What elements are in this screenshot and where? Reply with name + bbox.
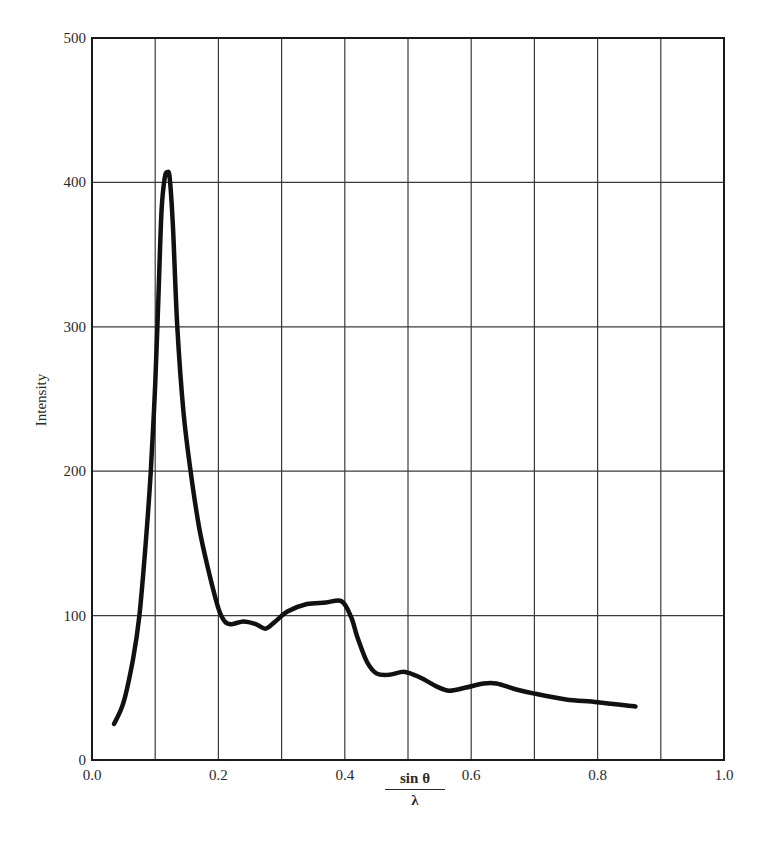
x-tick-label: 1.0 [715,767,734,783]
y-tick-label: 100 [64,608,87,624]
grid-lines [92,38,724,760]
y-axis-tick-labels: 0100200300400500 [64,30,87,768]
x-tick-label: 0.0 [83,767,102,783]
y-tick-label: 300 [64,319,87,335]
y-tick-label: 500 [64,30,87,46]
intensity-curve [114,172,635,724]
intensity-chart: 0100200300400500 0.00.20.40.60.81.0 Inte… [0,0,765,846]
x-tick-label: 0.6 [462,767,481,783]
x-axis-label-denominator: λ [385,790,445,809]
x-axis-label: sin θ λ [385,770,445,809]
y-axis-label: Intensity [33,373,49,426]
x-tick-label: 0.2 [209,767,228,783]
x-tick-label: 0.4 [335,767,354,783]
y-tick-label: 0 [79,752,87,768]
y-tick-label: 400 [64,174,87,190]
x-tick-label: 0.8 [588,767,607,783]
y-tick-label: 200 [64,463,87,479]
x-axis-label-numerator: sin θ [385,770,445,790]
